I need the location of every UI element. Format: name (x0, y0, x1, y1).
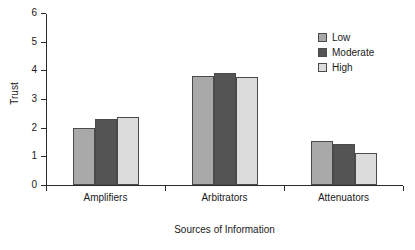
bar[interactable] (95, 119, 117, 186)
bar-chart: Trust 0123456 AmplifiersArbitratorsAtten… (0, 0, 415, 250)
y-axis-tick-label: 0 (31, 178, 37, 191)
y-axis-tick: 4 (41, 70, 46, 71)
y-axis-tick-label: 1 (31, 149, 37, 162)
y-axis-tick: 2 (41, 128, 46, 129)
legend-label: Low (332, 32, 350, 43)
bar-group (192, 14, 258, 185)
legend-item[interactable]: Moderate (318, 45, 374, 60)
y-axis-tick: 3 (41, 99, 46, 100)
y-axis-tick-label: 6 (31, 6, 37, 19)
legend-item[interactable]: High (318, 60, 374, 75)
bar[interactable] (333, 144, 355, 185)
x-axis-tick (403, 186, 404, 191)
x-axis-category-label: Amplifiers (56, 192, 156, 203)
y-axis-tick: 1 (41, 156, 46, 157)
legend: LowModerateHigh (318, 30, 374, 75)
legend-swatch (318, 33, 327, 42)
legend-swatch (318, 48, 327, 57)
x-axis-line (46, 185, 403, 186)
y-axis-tick: 5 (41, 42, 46, 43)
bar[interactable] (311, 141, 333, 185)
x-axis-tick (46, 186, 47, 191)
legend-label: High (332, 62, 353, 73)
x-axis-title: Sources of Information (46, 224, 403, 235)
bar[interactable] (192, 76, 214, 185)
y-axis-line (46, 14, 47, 186)
y-axis-tick-label: 2 (31, 121, 37, 134)
x-axis-tick (284, 186, 285, 191)
y-axis-title: Trust (9, 64, 20, 124)
legend-item[interactable]: Low (318, 30, 374, 45)
bar-group (73, 14, 139, 185)
bar[interactable] (355, 153, 377, 185)
y-axis-tick-label: 4 (31, 63, 37, 76)
bar[interactable] (73, 128, 95, 185)
y-axis-tick: 6 (41, 13, 46, 14)
legend-label: Moderate (332, 47, 374, 58)
legend-swatch (318, 63, 327, 72)
bar[interactable] (117, 117, 139, 185)
x-axis-category-label: Arbitrators (175, 192, 275, 203)
bar[interactable] (236, 77, 258, 185)
y-axis-tick-label: 5 (31, 35, 37, 48)
x-axis-tick (165, 186, 166, 191)
y-axis-tick-label: 3 (31, 92, 37, 105)
bar[interactable] (214, 73, 236, 185)
x-axis-category-label: Attenuators (294, 192, 394, 203)
